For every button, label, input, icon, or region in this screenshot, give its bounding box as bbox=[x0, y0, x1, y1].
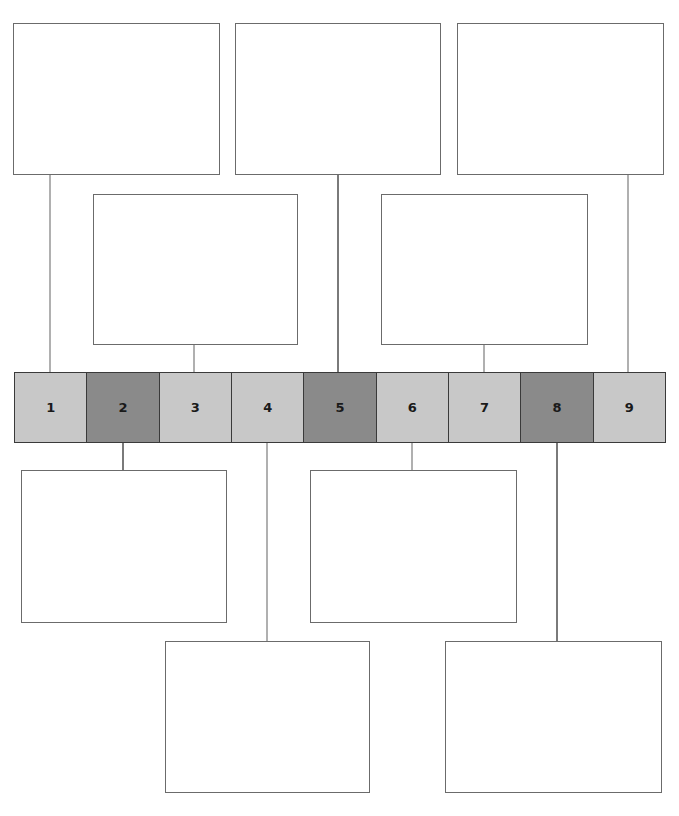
strip-cell-2: 2 bbox=[87, 373, 159, 442]
callout-box-5[interactable] bbox=[235, 23, 441, 175]
strip-cell-9: 9 bbox=[594, 373, 665, 442]
number-strip: 1 2 3 4 5 6 7 8 9 bbox=[14, 372, 666, 443]
connector-9 bbox=[627, 175, 629, 372]
connector-7 bbox=[483, 345, 485, 372]
strip-cell-5: 5 bbox=[304, 373, 376, 442]
strip-cell-8: 8 bbox=[521, 373, 593, 442]
callout-box-2[interactable] bbox=[21, 470, 227, 623]
strip-cell-6: 6 bbox=[377, 373, 449, 442]
strip-cell-1: 1 bbox=[15, 373, 87, 442]
callout-box-6[interactable] bbox=[310, 470, 517, 623]
connector-8 bbox=[556, 443, 558, 641]
connector-3 bbox=[193, 345, 195, 372]
strip-cell-3: 3 bbox=[160, 373, 232, 442]
connector-5 bbox=[337, 175, 339, 372]
connector-6 bbox=[411, 443, 413, 470]
callout-box-4[interactable] bbox=[165, 641, 370, 793]
connector-4 bbox=[266, 443, 268, 641]
callout-box-7[interactable] bbox=[381, 194, 588, 345]
strip-cell-7: 7 bbox=[449, 373, 521, 442]
connector-2 bbox=[122, 443, 124, 470]
strip-cell-4: 4 bbox=[232, 373, 304, 442]
callout-box-8[interactable] bbox=[445, 641, 662, 793]
connector-1 bbox=[49, 175, 51, 372]
callout-box-9[interactable] bbox=[457, 23, 664, 175]
callout-box-3[interactable] bbox=[93, 194, 298, 345]
callout-box-1[interactable] bbox=[13, 23, 220, 175]
